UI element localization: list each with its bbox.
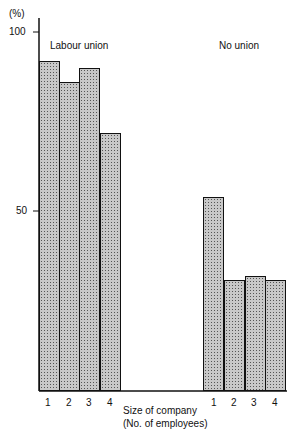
x-tick-labour-3: 3 xyxy=(86,397,92,408)
x-tick-labour-4: 4 xyxy=(107,397,113,408)
x-axis-label-line1: Size of company xyxy=(123,405,197,416)
x-tick-labour-2: 2 xyxy=(66,397,72,408)
x-axis-label-line2: (No. of employees) xyxy=(123,418,207,429)
x-tick-labour-1: 1 xyxy=(45,397,51,408)
x-tick-none-1: 1 xyxy=(211,397,217,408)
bar-no-union-4 xyxy=(265,280,286,391)
group-label-labour-union: Labour union xyxy=(50,40,108,51)
bar-labour-union-3 xyxy=(79,68,100,391)
x-tick-none-3: 3 xyxy=(251,397,257,408)
bar-chart: (%) 100 50 Labour union No union 1 2 3 4… xyxy=(0,0,297,434)
bar-no-union-2 xyxy=(224,280,245,391)
y-axis-unit: (%) xyxy=(9,8,25,19)
x-tick-none-2: 2 xyxy=(231,397,237,408)
y-tick-label-50: 50 xyxy=(16,205,27,216)
group-label-no-union: No union xyxy=(219,40,259,51)
bar-no-union-3 xyxy=(245,276,266,391)
bar-labour-union-2 xyxy=(59,82,80,391)
bar-labour-union-4 xyxy=(100,133,121,391)
bar-labour-union-1 xyxy=(39,61,60,391)
x-tick-none-4: 4 xyxy=(272,397,278,408)
bar-no-union-1 xyxy=(203,197,224,391)
y-tick-label-100: 100 xyxy=(9,26,26,37)
